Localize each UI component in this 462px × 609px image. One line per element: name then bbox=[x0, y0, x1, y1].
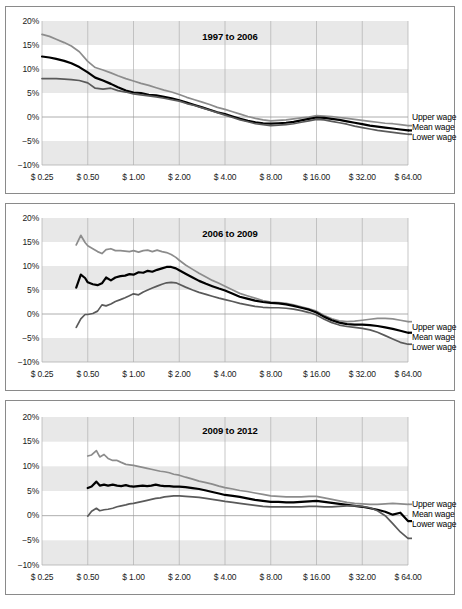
x-tick-label: $ 0.25 bbox=[18, 369, 66, 379]
x-tick-label: $ 1.00 bbox=[110, 572, 158, 582]
y-tick-label: −10% bbox=[6, 560, 39, 570]
legend-upper-wage-3: Upper wage bbox=[412, 499, 456, 509]
legend-lower-wage-2: Lower wage bbox=[412, 342, 456, 352]
y-tick-label: 10% bbox=[6, 261, 39, 271]
x-tick-label: $ 0.50 bbox=[64, 572, 112, 582]
x-tick-label: $ 0.50 bbox=[64, 172, 112, 182]
x-tick-label: $ 64.00 bbox=[384, 369, 432, 379]
y-tick-label: 0% bbox=[6, 309, 39, 319]
y-tick-label: 15% bbox=[6, 237, 39, 247]
y-tick-label: 10% bbox=[6, 461, 39, 471]
x-tick-label: $ 0.50 bbox=[64, 369, 112, 379]
x-tick-label: $ 32.00 bbox=[338, 572, 386, 582]
legend-mean-wage-1: Mean wage bbox=[412, 122, 456, 132]
x-tick-label: $ 16.00 bbox=[293, 572, 341, 582]
y-tick-label: −10% bbox=[6, 357, 39, 367]
y-tick-label: 0% bbox=[6, 112, 39, 122]
x-tick-label: $ 8.00 bbox=[247, 572, 295, 582]
legend-2: Upper wage Mean wage Lower wage bbox=[412, 322, 456, 353]
y-tick-label: −5% bbox=[6, 535, 39, 545]
chart-svg-1 bbox=[6, 7, 454, 193]
x-tick-label: $ 0.25 bbox=[18, 572, 66, 582]
x-tick-label: $ 1.00 bbox=[110, 172, 158, 182]
plot-area-2 bbox=[6, 204, 454, 390]
x-tick-label: $ 4.00 bbox=[201, 572, 249, 582]
x-tick-label: $ 2.00 bbox=[155, 369, 203, 379]
chart-svg-3 bbox=[6, 401, 454, 594]
x-tick-label: $ 4.00 bbox=[201, 172, 249, 182]
chart-svg-2 bbox=[6, 204, 454, 390]
legend-mean-wage-3: Mean wage bbox=[412, 509, 456, 519]
y-tick-label: −5% bbox=[6, 333, 39, 343]
x-tick-label: $ 2.00 bbox=[155, 172, 203, 182]
y-tick-label: 10% bbox=[6, 64, 39, 74]
x-tick-label: $ 32.00 bbox=[338, 369, 386, 379]
x-tick-label: $ 64.00 bbox=[384, 572, 432, 582]
chart-panel-1997-2006: 1997 to 2006 Upper wage Mean wage Lower … bbox=[5, 6, 455, 194]
y-tick-label: 0% bbox=[6, 510, 39, 520]
chart-panel-2009-2012: 2009 to 2012 Upper wage Mean wage Lower … bbox=[5, 400, 455, 595]
y-tick-label: 20% bbox=[6, 412, 39, 422]
x-tick-label: $ 32.00 bbox=[338, 172, 386, 182]
x-tick-label: $ 4.00 bbox=[201, 369, 249, 379]
x-tick-label: $ 16.00 bbox=[293, 369, 341, 379]
x-tick-label: $ 64.00 bbox=[384, 172, 432, 182]
y-tick-label: 5% bbox=[6, 486, 39, 496]
legend-3: Upper wage Mean wage Lower wage bbox=[412, 499, 456, 530]
chart-panel-2006-2009: 2006 to 2009 Upper wage Mean wage Lower … bbox=[5, 203, 455, 391]
y-tick-label: −10% bbox=[6, 160, 39, 170]
legend-lower-wage-1: Lower wage bbox=[412, 132, 456, 142]
wage-growth-figure: 1997 to 2006 Upper wage Mean wage Lower … bbox=[0, 0, 462, 609]
plot-area-1 bbox=[6, 7, 454, 193]
x-tick-label: $ 16.00 bbox=[293, 172, 341, 182]
y-tick-label: 20% bbox=[6, 16, 39, 26]
y-tick-label: 5% bbox=[6, 88, 39, 98]
x-tick-label: $ 8.00 bbox=[247, 172, 295, 182]
legend-mean-wage-2: Mean wage bbox=[412, 332, 456, 342]
legend-1: Upper wage Mean wage Lower wage bbox=[412, 112, 456, 143]
x-tick-label: $ 8.00 bbox=[247, 369, 295, 379]
y-tick-label: 15% bbox=[6, 436, 39, 446]
plot-area-3 bbox=[6, 401, 454, 594]
x-tick-label: $ 1.00 bbox=[110, 369, 158, 379]
x-tick-label: $ 2.00 bbox=[155, 572, 203, 582]
legend-lower-wage-3: Lower wage bbox=[412, 519, 456, 529]
y-tick-label: 15% bbox=[6, 40, 39, 50]
x-tick-label: $ 0.25 bbox=[18, 172, 66, 182]
y-tick-label: 20% bbox=[6, 213, 39, 223]
y-tick-label: 5% bbox=[6, 285, 39, 295]
y-tick-label: −5% bbox=[6, 136, 39, 146]
legend-upper-wage-2: Upper wage bbox=[412, 322, 456, 332]
legend-upper-wage-1: Upper wage bbox=[412, 112, 456, 122]
